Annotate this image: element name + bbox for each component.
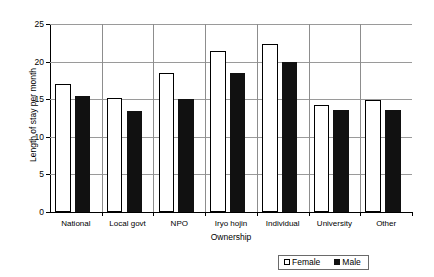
- bar-female-university: [314, 105, 330, 212]
- y-tick-label: 20: [35, 57, 44, 67]
- x-category-label: National: [61, 219, 90, 228]
- x-axis-line: [50, 212, 413, 213]
- y-tick-mark: [46, 137, 50, 138]
- category-separator: [153, 24, 154, 212]
- legend-entry-female: Female: [284, 258, 320, 267]
- bar-female-npo: [159, 73, 175, 212]
- y-tick-mark: [46, 24, 50, 25]
- bar-female-local-govt: [107, 98, 123, 212]
- bar-male-university: [333, 110, 349, 212]
- x-category-label: NPO: [171, 219, 188, 228]
- x-tick-mark: [360, 212, 361, 216]
- bar-female-iryo-hojin: [210, 51, 226, 212]
- plot-area: 0510152025: [50, 24, 412, 212]
- legend-swatch-icon: [334, 259, 340, 265]
- x-category-label: Individual: [266, 219, 300, 228]
- bar-male-npo: [178, 99, 194, 212]
- bar-female-other: [365, 100, 381, 212]
- x-tick-mark: [102, 212, 103, 216]
- x-category-label: Iryo hojin: [215, 219, 247, 228]
- x-axis-title: Ownership: [50, 232, 412, 242]
- x-category-label: University: [317, 219, 352, 228]
- legend-label: Male: [342, 258, 360, 267]
- x-tick-mark: [257, 212, 258, 216]
- bar-chart: Length of stay per month 0510152025 Owne…: [0, 0, 434, 277]
- y-tick-label: 15: [35, 94, 44, 104]
- bar-male-local-govt: [127, 111, 143, 212]
- bar-male-other: [385, 110, 401, 212]
- y-tick-label: 5: [39, 169, 44, 179]
- legend-swatch-icon: [284, 259, 290, 265]
- bar-male-individual: [282, 62, 298, 212]
- bar-male-iryo-hojin: [230, 73, 246, 212]
- bar-male-national: [75, 96, 91, 212]
- gridline-y-25: [50, 24, 412, 25]
- x-tick-mark: [153, 212, 154, 216]
- gridline-y-20: [50, 62, 412, 63]
- category-separator: [309, 24, 310, 212]
- category-separator: [257, 24, 258, 212]
- x-tick-mark: [309, 212, 310, 216]
- y-tick-mark: [46, 212, 50, 213]
- y-tick-label: 0: [39, 207, 44, 217]
- y-tick-mark: [46, 174, 50, 175]
- y-tick-mark: [46, 99, 50, 100]
- chart-legend: FemaleMale: [278, 255, 369, 270]
- category-separator: [205, 24, 206, 212]
- category-separator: [102, 24, 103, 212]
- y-tick-mark: [46, 62, 50, 63]
- x-category-label: Other: [376, 219, 396, 228]
- bar-female-national: [55, 84, 71, 212]
- x-category-label: Local govt: [109, 219, 145, 228]
- x-tick-mark: [205, 212, 206, 216]
- bar-female-individual: [262, 44, 278, 212]
- category-separator: [360, 24, 361, 212]
- y-tick-label: 25: [35, 19, 44, 29]
- x-tick-mark: [412, 212, 413, 216]
- legend-label: Female: [292, 258, 320, 267]
- y-tick-label: 10: [35, 132, 44, 142]
- legend-entry-male: Male: [334, 258, 360, 267]
